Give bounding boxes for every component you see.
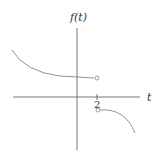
lower-branch-curve xyxy=(100,110,135,133)
x-axis-label: t xyxy=(147,91,152,104)
open-endpoint-upper xyxy=(95,76,99,80)
function-graph: f(t) t 2 xyxy=(0,0,163,156)
y-axis-label: f(t) xyxy=(69,11,87,24)
tick-label-2: 2 xyxy=(94,99,100,110)
upper-branch-curve xyxy=(12,50,94,78)
